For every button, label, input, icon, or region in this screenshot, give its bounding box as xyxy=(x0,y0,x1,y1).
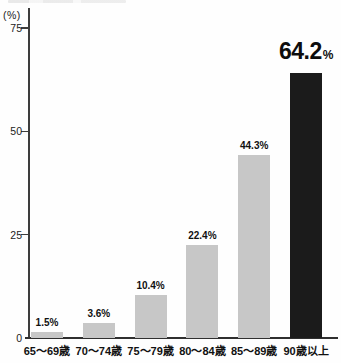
bar-80〜84歳 xyxy=(186,245,218,338)
bar-85〜89歳 xyxy=(238,155,270,338)
x-axis-category-label: 70〜74歳 xyxy=(71,345,127,358)
bar-value-label: 3.6% xyxy=(71,308,127,320)
y-tick-label: 0 xyxy=(0,331,22,345)
highlight-value-percent-sign: % xyxy=(323,48,333,62)
y-tick-mark xyxy=(21,234,29,235)
x-axis-category-label: 80〜84歳 xyxy=(174,345,230,358)
bar-65〜69歳 xyxy=(31,332,63,338)
highlight-value-number: 64.2 xyxy=(279,38,322,64)
bar-90歳以上 xyxy=(290,73,322,338)
y-axis-line xyxy=(28,8,30,338)
cropped-text-artifact xyxy=(8,0,126,3)
bar-chart: (%) 0255075 1.5%3.6%10.4%22.4%44.3% 65〜6… xyxy=(0,0,341,363)
bar-value-label: 10.4% xyxy=(123,280,179,292)
y-tick-mark xyxy=(21,131,29,132)
y-tick-label: 25 xyxy=(0,228,22,242)
y-tick-label: 50 xyxy=(0,124,22,138)
bar-70〜74歳 xyxy=(83,323,115,338)
bar-value-label: 44.3% xyxy=(226,140,282,152)
bar-value-label: 22.4% xyxy=(174,230,230,242)
bar-value-label: 1.5% xyxy=(19,317,75,329)
x-axis-category-label: 65〜69歳 xyxy=(19,345,75,358)
x-axis-category-label: 85〜89歳 xyxy=(226,345,282,358)
y-axis-unit-label: (%) xyxy=(3,9,21,21)
x-axis-category-label: 75〜79歳 xyxy=(123,345,179,358)
bar-75〜79歳 xyxy=(135,295,167,338)
y-tick-mark xyxy=(21,27,29,28)
y-tick-label: 75 xyxy=(0,21,22,35)
x-axis-category-label: 90歳以上 xyxy=(278,345,334,358)
highlight-value-label: 64.2% xyxy=(260,39,341,67)
